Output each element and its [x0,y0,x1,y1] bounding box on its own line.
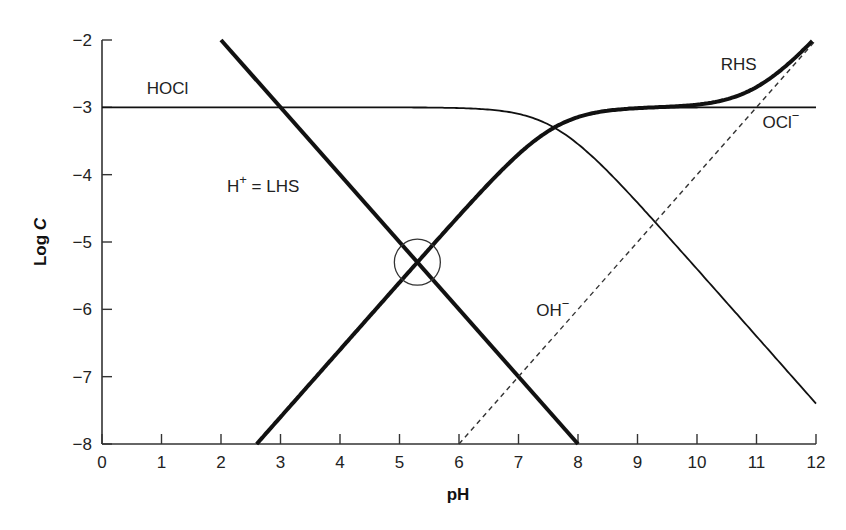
x-tick-label: 12 [807,453,826,472]
x-tick-label: 3 [276,453,285,472]
curve-ocl [257,107,816,444]
curve-label: HOCl [147,79,189,98]
log-c-ph-chart: 0123456789101112−2−3−4−5−6−7−8 HOClH+ = … [0,0,846,530]
curve-label: RHS [721,55,757,74]
x-axis-title: pH [447,485,470,504]
curves [102,40,816,444]
y-tick-label: −6 [73,300,92,319]
curve-label: OH− [536,296,569,320]
curve-rhs [257,41,813,444]
curve-hocl [102,107,816,403]
y-tick-label: −5 [73,233,92,252]
y-tick-label: −2 [73,31,92,50]
y-tick-label: −7 [73,368,92,387]
curve-label: OCl− [762,108,799,132]
curve-oh [459,40,816,444]
curve-h-lhs [221,40,578,444]
x-tick-label: 8 [573,453,582,472]
x-tick-label: 4 [335,453,344,472]
x-tick-label: 2 [216,453,225,472]
y-tick-label: −8 [73,435,92,454]
y-axis-title: Log C [31,217,50,266]
y-axis-title-c: C [31,217,50,230]
y-axis-title-log: Log [31,230,50,266]
x-tick-label: 9 [633,453,642,472]
y-tick-label: −3 [73,98,92,117]
x-tick-label: 0 [97,453,106,472]
x-tick-label: 7 [514,453,523,472]
x-tick-label: 6 [454,453,463,472]
x-tick-label: 11 [748,453,766,472]
x-tick-label: 1 [157,453,166,472]
x-tick-label: 10 [688,453,707,472]
curve-labels: HOClH+ = LHSRHSOCl−OH− [147,55,800,320]
y-tick-label: −4 [73,166,92,185]
x-tick-label: 5 [395,453,404,472]
curve-label: H+ = LHS [227,172,299,196]
